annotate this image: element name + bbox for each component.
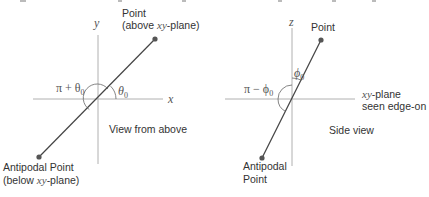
- clipped-top-text: [20, 0, 376, 2]
- x-axis-label: x: [167, 92, 174, 106]
- point-dot: [152, 36, 157, 41]
- pi-plus-theta-label: π + θ0: [56, 81, 85, 97]
- z-axis-label: z: [288, 15, 294, 29]
- xy-plane-sublabel: seen edge-on: [362, 100, 426, 112]
- point-sublabel: (above xy-plane): [122, 19, 199, 31]
- antipodal-point-diagram: y x Point (above xy-plane) π + θ0 θ0 Vie…: [0, 0, 429, 197]
- pi-plus-theta-angle-arc: [83, 84, 108, 110]
- antipodal-label: Antipodal: [243, 160, 287, 172]
- xy-plane-label: xy-plane: [361, 88, 401, 100]
- point-label: Point: [122, 7, 146, 19]
- antipodal-point-dot: [36, 154, 41, 159]
- side-view-diagram: z Point ϕ0 π − ϕ0 xy-plane seen edge-on …: [225, 15, 426, 185]
- view-from-above-diagram: y x Point (above xy-plane) π + θ0 θ0 Vie…: [3, 7, 199, 186]
- theta-label: θ0: [118, 84, 128, 100]
- point-label: Point: [311, 21, 335, 33]
- antipodal-point-label: Antipodal Point: [3, 161, 74, 173]
- pi-minus-phi-label: π − ϕ0: [244, 82, 273, 98]
- theta-angle-arc: [111, 86, 116, 99]
- antipodal-point-label: Point: [243, 173, 267, 185]
- antipodal-point-sublabel: (below xy-plane): [3, 174, 79, 186]
- point-dot: [318, 37, 323, 42]
- y-axis-label: y: [93, 16, 100, 30]
- point-to-antipode-line: [39, 39, 155, 157]
- side-view-caption: Side view: [329, 124, 374, 136]
- pi-minus-phi-angle-arc: [278, 85, 292, 112]
- phi-label: ϕ0: [294, 66, 304, 82]
- view-from-above-caption: View from above: [109, 123, 187, 135]
